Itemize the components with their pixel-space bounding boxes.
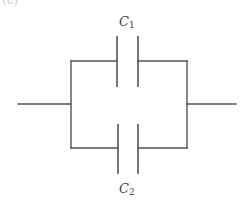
- c1-label-sub: 1: [129, 20, 135, 30]
- c1-label-main: C: [119, 14, 129, 29]
- circuit-diagram: (c) C1 C2: [0, 0, 248, 224]
- capacitor-c2-label: C2: [119, 182, 135, 197]
- capacitor-c1-symbol: [71, 36, 187, 87]
- capacitor-c2-symbol: [71, 124, 187, 174]
- capacitor-c1-label: C1: [119, 15, 135, 30]
- c2-label-main: C: [119, 181, 129, 196]
- c2-label-sub: 2: [129, 187, 135, 197]
